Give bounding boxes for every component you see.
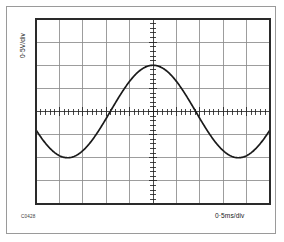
vertical-axis-label: 0·5V/div [19, 22, 26, 70]
figure-reference-code: C0428 [21, 214, 36, 219]
horizontal-axis-label: 0·5ms/div [215, 212, 244, 219]
center-axis-vertical-ticks [149, 19, 157, 204]
oscilloscope-figure: 0·5V/div 0·5ms/div C0428 [0, 0, 284, 242]
oscilloscope-display [0, 0, 284, 242]
